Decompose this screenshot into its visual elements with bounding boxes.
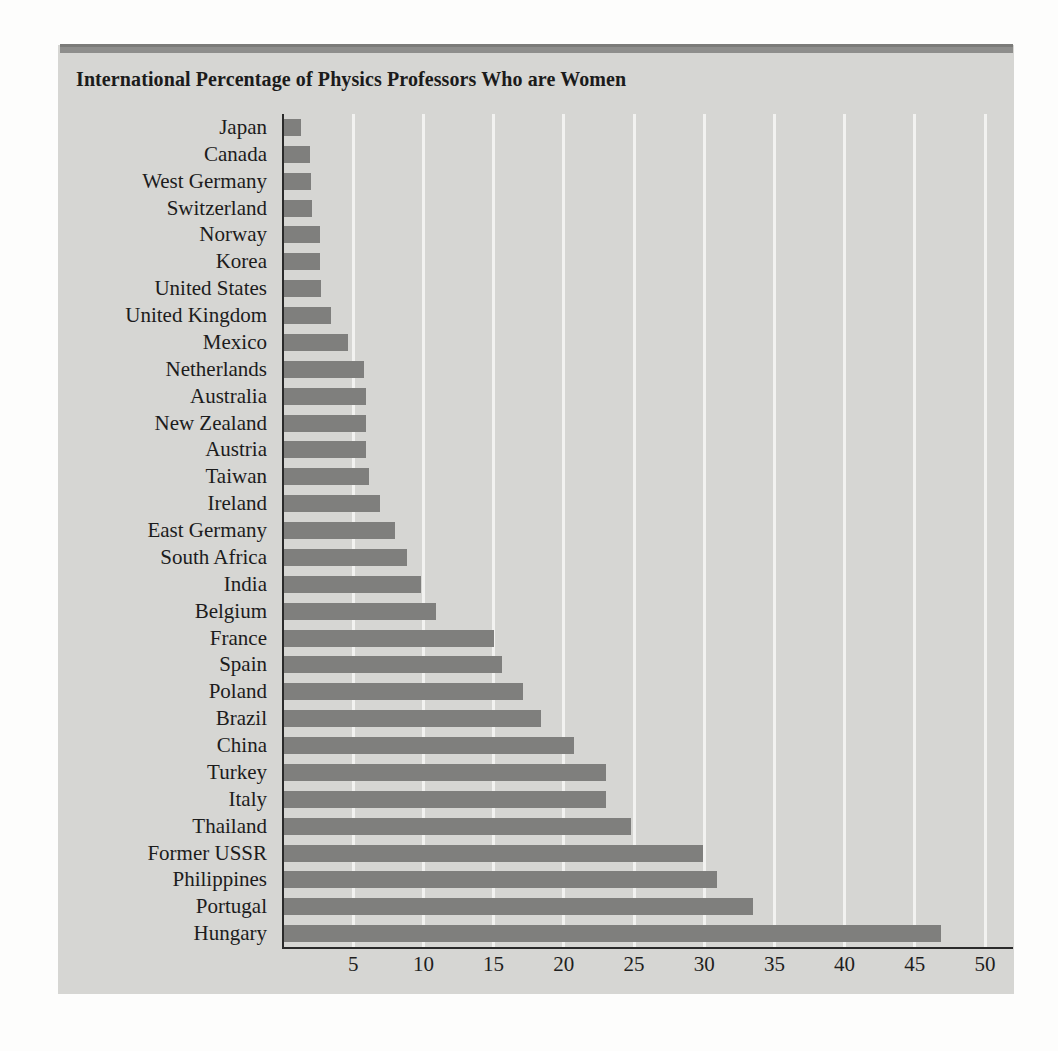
bar-row xyxy=(283,302,1000,330)
figure-top-rule xyxy=(60,44,1013,53)
bar-row xyxy=(283,813,1000,841)
category-label: United States xyxy=(154,274,267,302)
bar xyxy=(283,764,606,781)
y-axis-line xyxy=(282,114,284,949)
category-label: Former USSR xyxy=(147,839,267,867)
bar-row xyxy=(283,463,1000,491)
x-tick-label: 40 xyxy=(834,952,855,977)
bar xyxy=(283,146,310,163)
category-label: France xyxy=(210,624,267,652)
category-label: Mexico xyxy=(203,328,267,356)
bar-row xyxy=(283,195,1000,223)
category-label: South Africa xyxy=(160,543,267,571)
category-label: Philippines xyxy=(172,865,267,893)
category-label: Taiwan xyxy=(205,462,267,490)
category-label: Australia xyxy=(190,382,267,410)
category-label: New Zealand xyxy=(154,409,267,437)
category-label: West Germany xyxy=(142,167,267,195)
bar xyxy=(283,280,321,297)
bar xyxy=(283,307,331,324)
category-label: United Kingdom xyxy=(125,301,267,329)
bar xyxy=(283,388,366,405)
bar xyxy=(283,495,380,512)
bar xyxy=(283,522,395,539)
category-label: Norway xyxy=(199,220,267,248)
category-label: Belgium xyxy=(195,597,267,625)
bar xyxy=(283,576,421,593)
x-tick-label: 20 xyxy=(553,952,574,977)
bar xyxy=(283,549,407,566)
bar-row xyxy=(283,786,1000,814)
bar xyxy=(283,871,717,888)
bar xyxy=(283,119,301,136)
bar-row xyxy=(283,490,1000,518)
bar-row xyxy=(283,544,1000,572)
category-label: Ireland xyxy=(208,489,267,517)
category-label: East Germany xyxy=(147,516,267,544)
bar-row xyxy=(283,705,1000,733)
bar-row xyxy=(283,571,1000,599)
category-label: India xyxy=(224,570,267,598)
category-label: Spain xyxy=(219,650,267,678)
bar xyxy=(283,845,703,862)
bar-row xyxy=(283,840,1000,868)
bar xyxy=(283,441,366,458)
category-label: Canada xyxy=(204,140,267,168)
bar-row xyxy=(283,383,1000,411)
bar xyxy=(283,683,523,700)
bar-row xyxy=(283,759,1000,787)
page-background: International Percentage of Physics Prof… xyxy=(0,0,1058,1051)
chart-title: International Percentage of Physics Prof… xyxy=(76,68,626,91)
bar xyxy=(283,468,369,485)
x-tick-label: 35 xyxy=(764,952,785,977)
bar xyxy=(283,603,436,620)
bar-row xyxy=(283,168,1000,196)
bar-row xyxy=(283,436,1000,464)
bar-row xyxy=(283,114,1000,142)
bar-row xyxy=(283,356,1000,384)
category-label: Japan xyxy=(219,113,267,141)
bar-row xyxy=(283,248,1000,276)
bar xyxy=(283,656,502,673)
x-axis-line xyxy=(283,947,1013,949)
x-tick-label: 50 xyxy=(975,952,996,977)
bar-row xyxy=(283,678,1000,706)
bar xyxy=(283,361,364,378)
bar xyxy=(283,818,631,835)
bar-row xyxy=(283,651,1000,679)
category-label: Austria xyxy=(205,435,267,463)
category-label: Turkey xyxy=(207,758,267,786)
bar xyxy=(283,334,348,351)
bar xyxy=(283,925,941,942)
category-label: Italy xyxy=(229,785,267,813)
bar xyxy=(283,226,320,243)
bar-row xyxy=(283,275,1000,303)
bar xyxy=(283,737,574,754)
bar xyxy=(283,200,312,217)
bar-row xyxy=(283,517,1000,545)
bar xyxy=(283,173,311,190)
category-axis-labels: JapanCanadaWest GermanySwitzerlandNorway… xyxy=(0,114,275,947)
bar-row xyxy=(283,920,1000,948)
category-label: Thailand xyxy=(192,812,267,840)
x-tick-label: 5 xyxy=(348,952,359,977)
category-label: China xyxy=(217,731,267,759)
category-label: Hungary xyxy=(194,919,267,947)
plot-area xyxy=(283,114,1000,947)
category-label: Poland xyxy=(209,677,267,705)
bar-row xyxy=(283,221,1000,249)
bar-row xyxy=(283,893,1000,921)
bar-row xyxy=(283,410,1000,438)
bar-row xyxy=(283,329,1000,357)
category-label: Netherlands xyxy=(166,355,267,383)
bar xyxy=(283,898,753,915)
bar-row xyxy=(283,625,1000,653)
bar-row xyxy=(283,866,1000,894)
bar-row xyxy=(283,141,1000,169)
x-tick-label: 15 xyxy=(483,952,504,977)
category-label: Korea xyxy=(216,247,267,275)
x-tick-label: 25 xyxy=(624,952,645,977)
bar xyxy=(283,253,320,270)
x-tick-label: 10 xyxy=(413,952,434,977)
bar xyxy=(283,415,366,432)
